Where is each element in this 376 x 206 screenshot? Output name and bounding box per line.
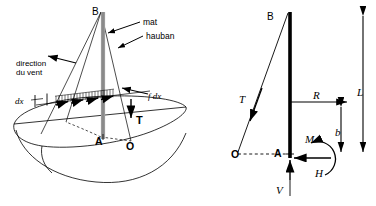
label-fdx: f dx xyxy=(148,91,161,101)
label-wind-line1: direction xyxy=(16,59,46,68)
label-dx: dx xyxy=(15,96,24,106)
label-R: R xyxy=(312,89,320,101)
label-b: b xyxy=(335,126,341,138)
label-M: M xyxy=(304,133,315,145)
label-T-left: T xyxy=(136,114,143,126)
label-L: L xyxy=(356,86,363,98)
label-mat: mat xyxy=(143,17,158,27)
label-hauban: hauban xyxy=(146,31,175,41)
label-B-right: B xyxy=(267,11,274,22)
sailboat-force-diagram: B A O mat hauban direction du vent dx f … xyxy=(0,0,376,206)
label-wind-line2: du vent xyxy=(16,68,43,77)
label-A-right: A xyxy=(274,147,282,159)
label-O-right: O xyxy=(231,148,239,160)
figure-root: B A O mat hauban direction du vent dx f … xyxy=(0,0,376,206)
label-O-left: O xyxy=(126,140,134,152)
label-H: H xyxy=(314,167,324,179)
label-B-left: B xyxy=(92,6,99,17)
label-T-right: T xyxy=(239,93,246,105)
label-A-left: A xyxy=(95,135,103,147)
